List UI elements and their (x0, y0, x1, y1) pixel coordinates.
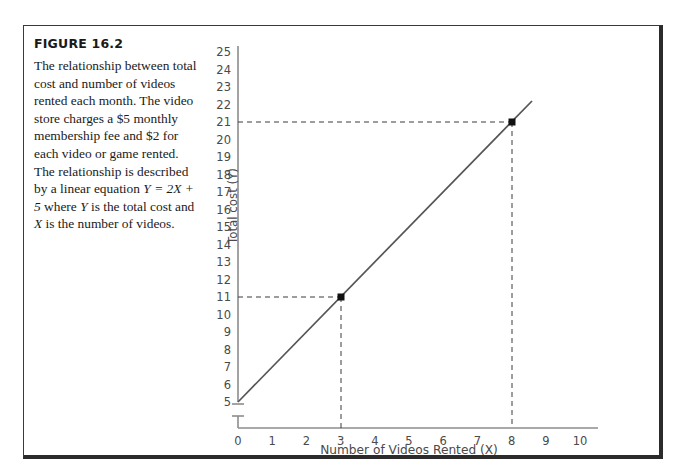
caption-equation-prefix: equation (94, 181, 143, 196)
x-axis-label: Number of Videos Rented (X) (238, 443, 580, 457)
figure-number: FIGURE 16.2 (34, 36, 202, 51)
y-tick-11: 11 (205, 290, 231, 304)
figure-page: FIGURE 16.2 The relationship between tot… (0, 0, 685, 466)
caption-last-line: number of videos. (78, 216, 175, 231)
y-tick-20: 20 (205, 133, 231, 147)
caption-var-y: Y (80, 199, 87, 214)
caption-var-x: X (34, 216, 42, 231)
figure-caption-block: FIGURE 16.2 The relationship between tot… (34, 36, 202, 233)
y-tick-5: 5 (205, 395, 231, 409)
y-tick-12: 12 (205, 273, 231, 287)
y-tick-25: 25 (205, 45, 231, 59)
caption-tail-1: is the total cost and (88, 199, 195, 214)
y-tick-22: 22 (205, 98, 231, 112)
caption-tail-2: is the (42, 216, 74, 231)
caption-line-1: The relationship between (34, 58, 169, 73)
y-tick-7: 7 (205, 360, 231, 374)
y-tick-9: 9 (205, 325, 231, 339)
figure-caption-text: The relationship between total cost and … (34, 57, 202, 233)
y-tick-21: 21 (205, 115, 231, 129)
y-tick-8: 8 (205, 343, 231, 357)
y-tick-10: 10 (205, 308, 231, 322)
y-tick-23: 23 (205, 80, 231, 94)
y-tick-6: 6 (205, 378, 231, 392)
y-axis-label: Total cost (Y) (226, 146, 240, 266)
y-tick-24: 24 (205, 63, 231, 77)
caption-equation-suffix: where (41, 199, 77, 214)
